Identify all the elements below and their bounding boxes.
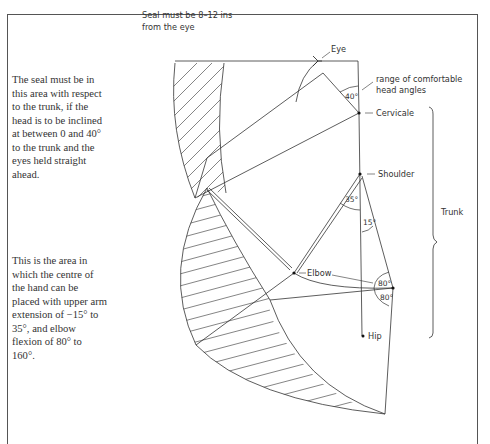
hand-area-outline [180, 188, 385, 414]
seal-distance-label-1: Seal must be 8–12 ins [142, 10, 232, 20]
seal-area-hatch [160, 20, 240, 250]
arm-forward-angle-label: 35° [345, 195, 359, 204]
shoulder-point [358, 172, 361, 175]
head-range-label-1: range of comfortable [376, 74, 462, 84]
hip-label: Hip [368, 331, 382, 341]
cervicale-point [357, 111, 360, 114]
shoulder-label: Shoulder [378, 169, 415, 179]
hip-point [362, 335, 365, 338]
elbow-upper-angle-label: 80° [378, 279, 392, 288]
trunk-label: Trunk [440, 207, 464, 217]
eye-label: Eye [331, 44, 346, 54]
seal-area-outline [174, 63, 226, 198]
arm-back-angle-label: 15° [363, 218, 377, 227]
hand-point [391, 286, 394, 289]
seal-distance-label-2: from the eye [142, 22, 195, 32]
elbow-lower-angle-label: 80° [380, 293, 394, 302]
cervicale-label: Cervicale [376, 108, 414, 118]
head-angle-label: 40° [345, 92, 359, 101]
elbow-point [292, 271, 295, 274]
elbow-label: Elbow [307, 268, 332, 278]
head-range-label-2: head angles [376, 85, 426, 95]
